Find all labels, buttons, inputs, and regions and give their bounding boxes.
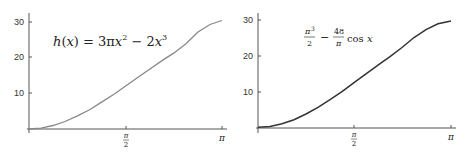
left-x-label-half-num: π xyxy=(123,132,129,140)
charts-canvas: 30 20 10 π 2 π h(x) = 3πx2 − 2x3 30 20 1… xyxy=(0,0,468,156)
right-formula-frac1-den: 2 xyxy=(307,39,312,48)
right-formula-cos: cos xyxy=(347,33,364,44)
right-y-label-30: 30 xyxy=(243,15,253,25)
right-formula-frac2-den: π xyxy=(335,39,342,48)
left-y-label-20: 20 xyxy=(14,52,24,62)
left-x-label-pi: π xyxy=(218,133,226,143)
left-chart: 30 20 10 π 2 π h(x) = 3πx2 − 2x3 xyxy=(14,13,227,149)
left-y-label-10: 10 xyxy=(14,88,24,98)
right-formula-frac1-sup: 3 xyxy=(311,25,315,32)
left-x-label-half-den: 2 xyxy=(124,141,128,149)
right-x-label-half-den: 2 xyxy=(352,140,356,148)
right-formula-frac2-num: 48 xyxy=(334,27,344,36)
right-x-label-half-num: π xyxy=(351,131,357,139)
right-y-label-20: 20 xyxy=(243,51,253,61)
right-y-label-10: 10 xyxy=(243,87,253,97)
right-chart: 30 20 10 π 2 π π 3 2 − 48 π cos x xyxy=(243,13,456,148)
right-formula-frac1-num: π xyxy=(304,27,311,36)
right-x-label-pi: π xyxy=(447,132,455,142)
left-formula: h(x) = 3πx2 − 2x3 xyxy=(53,33,167,49)
left-y-label-30: 30 xyxy=(14,17,24,27)
right-formula-var: x xyxy=(367,33,373,44)
right-formula-minus: − xyxy=(320,31,329,44)
right-formula: π 3 2 − 48 π cos x xyxy=(304,25,373,48)
